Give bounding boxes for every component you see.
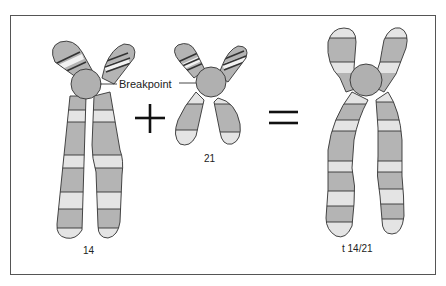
breakpoint-label: Breakpoint (119, 78, 172, 90)
translocation-diagram: Breakpoint (0, 0, 446, 286)
chromosome-14-label: 14 (83, 245, 95, 256)
centromere-translocation (350, 64, 382, 96)
centromere-14 (71, 69, 101, 99)
translocation-label: t 14/21 (342, 243, 373, 254)
centromere-21 (196, 67, 226, 97)
plus-sign (135, 104, 165, 133)
chromosome-21-label: 21 (204, 153, 216, 164)
translocation-chromosome (320, 24, 413, 243)
equals-sign (269, 112, 298, 123)
chromosome-21 (165, 38, 254, 153)
chromosome-14 (40, 35, 145, 245)
